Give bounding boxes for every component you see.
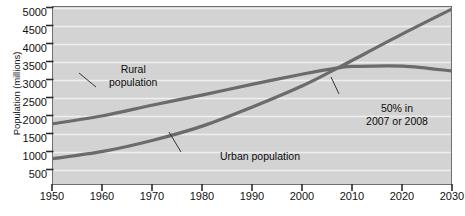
y-tick-500: 500 <box>9 169 47 180</box>
y-tick-5000: 5000 <box>9 7 47 18</box>
y-tick-4000: 4000 <box>9 43 47 54</box>
x-tick-1960: 1960 <box>79 191 125 202</box>
annotation-rural-population: Rural population <box>109 63 157 88</box>
y-tick-3500: 3500 <box>9 61 47 72</box>
y-tick-2500: 2500 <box>9 97 47 108</box>
y-tick-3000: 3000 <box>9 79 47 90</box>
annotation-urban-population: Urban population <box>220 150 300 163</box>
y-axis-tick-labels: 5000 4500 4000 3500 3000 2500 2000 1500 … <box>0 0 47 190</box>
x-tick-1980: 1980 <box>179 191 225 202</box>
y-tick-1000: 1000 <box>9 151 47 162</box>
x-tick-2000: 2000 <box>279 191 325 202</box>
x-tick-1970: 1970 <box>129 191 175 202</box>
y-tick-4500: 4500 <box>9 25 47 36</box>
annotation-rural-line2: population <box>109 76 157 89</box>
x-tick-2030: 2030 <box>429 191 465 202</box>
population-chart-figure: Population (millions) 5000 4500 4000 350… <box>0 0 465 216</box>
x-tick-1990: 1990 <box>229 191 275 202</box>
annotation-rural-line1: Rural <box>109 63 157 76</box>
x-tick-2010: 2010 <box>329 191 375 202</box>
y-tick-1500: 1500 <box>9 133 47 144</box>
annotation-crossing-line2: 2007 or 2008 <box>342 115 452 128</box>
annotation-crossing-line1: 50% in <box>342 102 452 115</box>
annotation-urban-line1: Urban population <box>220 150 300 163</box>
annotation-crossing-point: 50% in 2007 or 2008 <box>342 102 452 127</box>
x-tick-1950: 1950 <box>29 191 75 202</box>
x-tick-2020: 2020 <box>379 191 425 202</box>
plot-area: Rural population Urban population 50% in… <box>52 6 452 185</box>
y-tick-2000: 2000 <box>9 115 47 126</box>
